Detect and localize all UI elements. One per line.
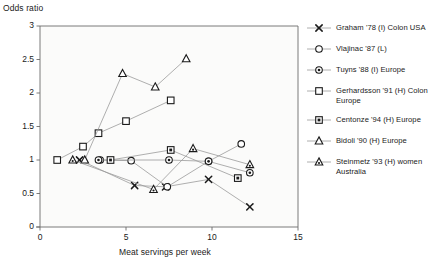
data-point xyxy=(123,118,130,125)
data-point xyxy=(235,175,242,182)
data-point xyxy=(167,147,174,154)
data-point xyxy=(80,143,87,150)
legend-marker xyxy=(316,88,323,95)
legend-item[interactable]: Vlajinac '87 (L) xyxy=(306,43,435,55)
chart-legend: Graham '78 (I) Colon USAVlajinac '87 (L)… xyxy=(306,22,435,185)
data-point xyxy=(205,158,212,165)
legend-item-label: Gerhardsson '91 (H) Colon Europe xyxy=(336,85,435,105)
legend-marker-cross-x-icon xyxy=(306,22,332,34)
data-point xyxy=(247,169,254,176)
legend-marker-open-triangle-icon xyxy=(306,135,332,147)
data-point xyxy=(107,157,114,164)
legend-marker xyxy=(315,158,323,165)
legend-item-label: Centonze '94 (H) Europe xyxy=(336,114,421,125)
data-point xyxy=(54,157,61,164)
legend-marker-dot-square-icon xyxy=(306,114,332,126)
legend-marker xyxy=(316,67,323,74)
legend-marker-open-square-icon xyxy=(306,85,332,97)
chart-figure: Odds ratio Meat servings per week 00.511… xyxy=(0,0,435,266)
legend-marker xyxy=(316,46,323,53)
legend-item[interactable]: Tuyns '88 (I) Europe xyxy=(306,64,435,76)
legend-item[interactable]: Gerhardsson '91 (H) Colon Europe xyxy=(306,85,435,105)
legend-item[interactable]: Centonze '94 (H) Europe xyxy=(306,114,435,126)
data-point xyxy=(164,184,171,191)
legend-item-label: Steinmetz '93 (H) women Australia xyxy=(336,156,435,176)
legend-marker-dot-circle-icon xyxy=(306,64,332,76)
data-point xyxy=(166,157,173,164)
legend-item-label: Vlajinac '87 (L) xyxy=(336,43,387,54)
legend-item[interactable]: Graham '78 (I) Colon USA xyxy=(306,22,435,34)
legend-item-label: Graham '78 (I) Colon USA xyxy=(336,22,426,33)
data-point xyxy=(128,157,135,164)
data-point xyxy=(167,97,174,104)
legend-marker xyxy=(316,117,323,124)
legend-item[interactable]: Bidoli '90 (H) Europe xyxy=(306,135,435,147)
plot-background xyxy=(40,26,298,227)
legend-marker xyxy=(315,137,323,144)
legend-item-label: Bidoli '90 (H) Europe xyxy=(336,135,407,146)
data-point xyxy=(238,141,245,148)
legend-item-label: Tuyns '88 (I) Europe xyxy=(336,64,405,75)
data-point xyxy=(95,157,102,164)
legend-marker-open-circle-icon xyxy=(306,43,332,55)
legend-marker-dot-triangle-icon xyxy=(306,156,332,168)
legend-item[interactable]: Steinmetz '93 (H) women Australia xyxy=(306,156,435,176)
